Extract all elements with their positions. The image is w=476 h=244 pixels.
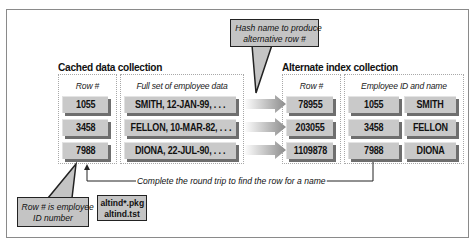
- hash-callout: Hash name to produce alternative row #: [230, 19, 319, 47]
- hash-callout-pointer: [252, 45, 272, 93]
- file-name: altind.tst: [100, 208, 143, 219]
- file-name: altind*.pkg: [100, 197, 143, 208]
- hash-callout-line: Hash name to produce: [235, 22, 313, 33]
- rowid-callout-line: Row # is employee: [22, 201, 85, 212]
- hash-arrow-icon: [244, 95, 286, 113]
- rowid-callout: Row # is employee ID number: [17, 197, 89, 227]
- round-trip-arrowhead-icon: [84, 164, 90, 170]
- rowid-callout-pointer: [48, 164, 76, 198]
- hash-arrow-icon: [244, 141, 286, 159]
- round-trip-label: Complete the round trip to find the row …: [136, 175, 326, 186]
- rowid-callout-line: ID number: [22, 212, 85, 223]
- hash-arrow-icon: [244, 118, 286, 136]
- file-label-box: altind*.pkg altind.tst: [97, 195, 147, 221]
- hash-callout-line: alternative row #: [235, 33, 313, 44]
